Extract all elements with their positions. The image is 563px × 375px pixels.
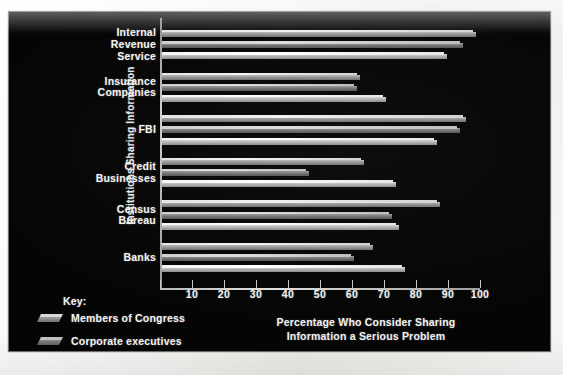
bar — [162, 243, 373, 250]
legend-item: Members of Congress — [31, 309, 241, 330]
bar-top-chamfer — [162, 212, 389, 214]
bar-top-chamfer — [162, 169, 306, 171]
bar — [162, 84, 357, 91]
x-axis-tick-label: 30 — [250, 288, 262, 300]
bar — [162, 115, 466, 122]
x-axis-tick — [192, 280, 193, 288]
bar-face — [162, 54, 447, 59]
bar — [162, 180, 396, 187]
bar — [162, 158, 364, 165]
bar-face — [162, 202, 440, 207]
bar — [162, 52, 447, 59]
bar-top-chamfer — [162, 84, 354, 86]
bar-top-chamfer — [162, 138, 434, 140]
x-axis-tick — [352, 280, 353, 288]
x-axis-tick — [448, 280, 449, 288]
x-axis-tick — [288, 280, 289, 288]
bar — [162, 169, 309, 176]
x-axis-title-line-1: Percentage Who Consider Sharing — [241, 315, 491, 329]
bar — [162, 126, 460, 133]
bar — [162, 200, 440, 207]
bar-top-chamfer — [162, 52, 444, 54]
category-label: CensusBureau — [61, 204, 156, 227]
legend-swatch — [37, 337, 63, 345]
x-axis-tick-label: 50 — [314, 288, 326, 300]
category-label-line: Bureau — [61, 215, 156, 227]
category-label-line: Revenue — [61, 39, 156, 51]
bar-group — [162, 115, 482, 149]
bar-top-chamfer — [162, 73, 357, 75]
x-axis-tick — [160, 280, 161, 288]
bar-top-chamfer — [162, 30, 473, 32]
bar-top-chamfer — [162, 254, 351, 256]
bar — [162, 254, 354, 261]
x-axis-title-line-2: Information a Serious Problem — [241, 329, 491, 343]
bar-top-chamfer — [162, 41, 460, 43]
legend: Key: Members of CongressCorporate execut… — [31, 295, 241, 351]
bar-face — [162, 97, 386, 102]
bar-top-chamfer — [162, 200, 437, 202]
category-label: Banks — [61, 252, 156, 264]
category-label-line: Credit — [61, 161, 156, 173]
category-label-line: Companies — [61, 87, 156, 99]
bar-face — [162, 267, 405, 272]
bar-face — [162, 32, 476, 37]
bar-face — [162, 43, 463, 48]
x-axis-tick-label: 100 — [471, 288, 489, 300]
bar-face — [162, 214, 392, 219]
category-label: InternalRevenueService — [61, 27, 156, 62]
bar-top-chamfer — [162, 95, 383, 97]
bar — [162, 95, 386, 102]
bar — [162, 212, 392, 219]
bar-top-chamfer — [162, 265, 402, 267]
bar-face — [162, 140, 437, 145]
category-label: InsuranceCompanies — [61, 76, 156, 99]
bar-top-chamfer — [162, 115, 463, 117]
bar-face — [162, 75, 360, 80]
bar-face — [162, 171, 309, 176]
chart-panel: Institutions Sharing Information Interna… — [9, 12, 550, 351]
bar-group — [162, 158, 482, 192]
x-axis-tick — [416, 280, 417, 288]
legend-items: Members of CongressCorporate executivesS… — [31, 309, 241, 351]
bar — [162, 73, 360, 80]
bar-face — [162, 245, 373, 250]
x-axis-tick — [256, 280, 257, 288]
slide-photograph: Institutions Sharing Information Interna… — [0, 0, 563, 375]
legend-swatch-face — [37, 340, 61, 345]
bar-face — [162, 160, 364, 165]
x-axis-title: Percentage Who Consider Sharing Informat… — [241, 315, 491, 343]
legend-label: Corporate executives — [71, 335, 182, 347]
x-axis-tick-label: 90 — [442, 288, 454, 300]
legend-item: Corporate executives — [31, 332, 241, 351]
bar — [162, 138, 437, 145]
x-axis-tick — [320, 280, 321, 288]
bar — [162, 265, 405, 272]
bar-top-chamfer — [162, 180, 393, 182]
bar-top-chamfer — [162, 243, 370, 245]
plot-area — [160, 18, 480, 290]
x-axis-tick-label: 70 — [378, 288, 390, 300]
category-label: CreditBusinesses — [61, 161, 156, 184]
bar-face — [162, 256, 354, 261]
x-axis-tick-label: 60 — [346, 288, 358, 300]
x-axis-tick — [384, 280, 385, 288]
bar-face — [162, 128, 460, 133]
legend-swatch — [37, 314, 63, 322]
legend-swatch-top — [39, 337, 62, 340]
bar-top-chamfer — [162, 126, 457, 128]
x-axis-tick — [224, 280, 225, 288]
bar-group — [162, 200, 482, 234]
x-axis-tick-label: 40 — [282, 288, 294, 300]
x-axis-tick — [480, 280, 481, 288]
legend-swatch-face — [37, 317, 61, 322]
bar-group — [162, 30, 482, 64]
bar — [162, 223, 399, 230]
bar-group — [162, 243, 482, 277]
category-label-line: Service — [61, 51, 156, 63]
category-label-group: InternalRevenueServiceInsuranceCompanies… — [61, 18, 156, 290]
bar-face — [162, 182, 396, 187]
category-label: FBI — [61, 124, 156, 136]
bar — [162, 41, 463, 48]
bar-top-chamfer — [162, 158, 361, 160]
